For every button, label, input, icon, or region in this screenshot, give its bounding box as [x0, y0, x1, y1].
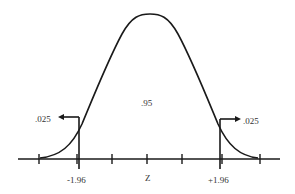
right-arrow-icon: [235, 116, 241, 122]
bell-curve: [40, 14, 258, 158]
center-area-label: .95: [141, 98, 153, 108]
left-arrow-icon: [58, 114, 64, 120]
axis-label-z: Z: [145, 173, 151, 183]
normal-curve-diagram: .025 .025 .95 Z -1.96 +1.96: [0, 0, 295, 194]
left-tail-label: .025: [35, 114, 51, 124]
left-critical-value: -1.96: [67, 175, 86, 185]
right-critical-value: +1.96: [208, 175, 229, 185]
right-tail-label: .025: [243, 116, 259, 126]
